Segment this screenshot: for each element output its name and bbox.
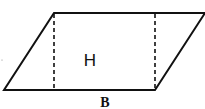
parallelogram-shape [4, 13, 205, 90]
base-label: B [100, 95, 109, 109]
height-label: H [84, 51, 96, 70]
stray-dot [1, 59, 2, 60]
parallelogram-diagram: H B [0, 0, 205, 109]
